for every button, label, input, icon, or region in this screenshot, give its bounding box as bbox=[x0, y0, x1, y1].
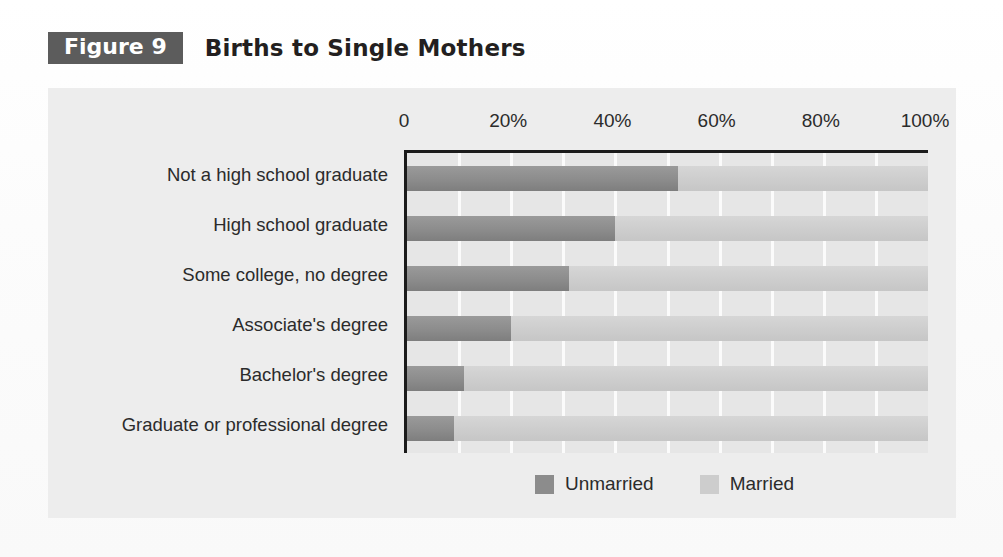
x-axis-tick-label: 80% bbox=[802, 110, 840, 132]
figure-title: Births to Single Mothers bbox=[205, 35, 526, 61]
bar-segment-married bbox=[511, 316, 928, 341]
bar-segment-unmarried bbox=[407, 166, 678, 191]
legend-item: Married bbox=[700, 473, 794, 495]
gridline bbox=[614, 153, 617, 453]
bar-row bbox=[407, 316, 928, 341]
gridline bbox=[458, 153, 461, 453]
legend-item: Unmarried bbox=[535, 473, 654, 495]
category-axis-label: Bachelor's degree bbox=[239, 364, 388, 386]
bar-segment-unmarried bbox=[407, 216, 615, 241]
chart-legend: UnmarriedMarried bbox=[404, 473, 925, 495]
gridline bbox=[719, 153, 722, 453]
figure-number-badge: Figure 9 bbox=[48, 32, 183, 63]
bar-segment-unmarried bbox=[407, 316, 511, 341]
gridline bbox=[510, 153, 513, 453]
figure-header: Figure 9 Births to Single Mothers bbox=[48, 30, 526, 66]
figure-root: Figure 9 Births to Single Mothers 020%40… bbox=[0, 0, 1003, 557]
bar-segment-married bbox=[464, 366, 928, 391]
category-axis-label: Not a high school graduate bbox=[167, 164, 388, 186]
bar-segment-married bbox=[615, 216, 928, 241]
bar-row bbox=[407, 216, 928, 241]
x-axis-tick-label: 100% bbox=[901, 110, 950, 132]
gridline bbox=[562, 153, 565, 453]
bar-row bbox=[407, 166, 928, 191]
gridlines bbox=[407, 153, 928, 453]
category-axis-label: Graduate or professional degree bbox=[122, 414, 388, 436]
square-swatch-icon bbox=[535, 475, 554, 494]
x-axis-tick-labels: 020%40%60%80%100% bbox=[48, 110, 956, 138]
category-axis-label: Associate's degree bbox=[232, 314, 388, 336]
chart-panel: 020%40%60%80%100% Not a high school grad… bbox=[48, 88, 956, 518]
category-axis-labels: Not a high school graduateHigh school gr… bbox=[48, 150, 396, 450]
bar-segment-married bbox=[569, 266, 928, 291]
x-axis-tick-label: 40% bbox=[593, 110, 631, 132]
plot-area bbox=[404, 150, 928, 453]
legend-label: Married bbox=[730, 473, 794, 495]
bar-segment-married bbox=[678, 166, 928, 191]
bar-segment-unmarried bbox=[407, 266, 569, 291]
legend-label: Unmarried bbox=[565, 473, 654, 495]
bar-row bbox=[407, 366, 928, 391]
gridline bbox=[875, 153, 878, 453]
gridline bbox=[823, 153, 826, 453]
gridline bbox=[771, 153, 774, 453]
bar-segment-unmarried bbox=[407, 416, 454, 441]
x-axis-tick-label: 0 bbox=[399, 110, 410, 132]
category-axis-label: Some college, no degree bbox=[182, 264, 388, 286]
square-swatch-icon bbox=[700, 475, 719, 494]
category-axis-label: High school graduate bbox=[213, 214, 388, 236]
bar-segment-married bbox=[454, 416, 928, 441]
bar-row bbox=[407, 266, 928, 291]
bar-segment-unmarried bbox=[407, 366, 464, 391]
x-axis-tick-label: 20% bbox=[489, 110, 527, 132]
gridline bbox=[667, 153, 670, 453]
bar-row bbox=[407, 416, 928, 441]
x-axis-tick-label: 60% bbox=[698, 110, 736, 132]
